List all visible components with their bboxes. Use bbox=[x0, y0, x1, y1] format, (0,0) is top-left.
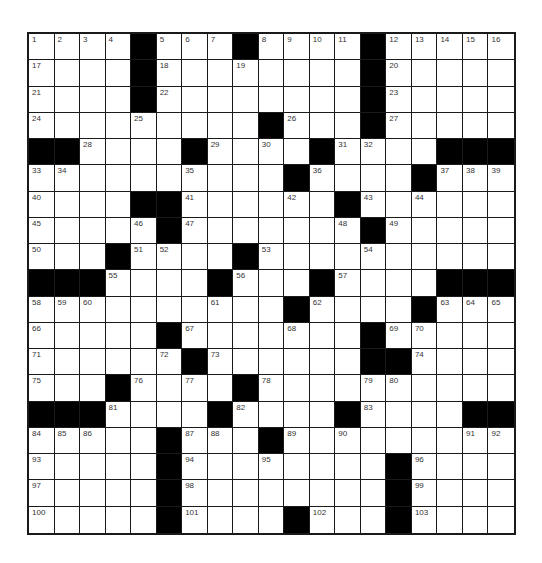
numbered-cell[interactable]: 56 bbox=[233, 270, 259, 296]
empty-cell[interactable] bbox=[157, 402, 183, 428]
empty-cell[interactable] bbox=[412, 87, 438, 113]
empty-cell[interactable] bbox=[412, 402, 438, 428]
empty-cell[interactable] bbox=[131, 139, 157, 165]
empty-cell[interactable] bbox=[386, 402, 412, 428]
empty-cell[interactable] bbox=[488, 87, 514, 113]
numbered-cell[interactable]: 50 bbox=[29, 244, 55, 270]
empty-cell[interactable] bbox=[259, 349, 285, 375]
empty-cell[interactable] bbox=[208, 192, 234, 218]
numbered-cell[interactable]: 2 bbox=[55, 34, 81, 60]
empty-cell[interactable] bbox=[488, 113, 514, 139]
empty-cell[interactable] bbox=[310, 323, 336, 349]
empty-cell[interactable] bbox=[182, 113, 208, 139]
numbered-cell[interactable]: 8 bbox=[259, 34, 285, 60]
numbered-cell[interactable]: 42 bbox=[284, 192, 310, 218]
empty-cell[interactable] bbox=[157, 139, 183, 165]
empty-cell[interactable] bbox=[412, 113, 438, 139]
numbered-cell[interactable]: 75 bbox=[29, 375, 55, 401]
numbered-cell[interactable]: 95 bbox=[259, 454, 285, 480]
numbered-cell[interactable]: 9 bbox=[284, 34, 310, 60]
numbered-cell[interactable]: 86 bbox=[80, 428, 106, 454]
numbered-cell[interactable]: 34 bbox=[55, 165, 81, 191]
empty-cell[interactable] bbox=[488, 349, 514, 375]
empty-cell[interactable] bbox=[386, 192, 412, 218]
numbered-cell[interactable]: 79 bbox=[361, 375, 387, 401]
empty-cell[interactable] bbox=[437, 402, 463, 428]
numbered-cell[interactable]: 38 bbox=[463, 165, 489, 191]
empty-cell[interactable] bbox=[361, 507, 387, 533]
numbered-cell[interactable]: 78 bbox=[259, 375, 285, 401]
empty-cell[interactable] bbox=[106, 139, 132, 165]
empty-cell[interactable] bbox=[310, 428, 336, 454]
numbered-cell[interactable]: 88 bbox=[208, 428, 234, 454]
empty-cell[interactable] bbox=[80, 375, 106, 401]
numbered-cell[interactable]: 97 bbox=[29, 480, 55, 506]
numbered-cell[interactable]: 35 bbox=[182, 165, 208, 191]
numbered-cell[interactable]: 83 bbox=[361, 402, 387, 428]
empty-cell[interactable] bbox=[182, 87, 208, 113]
empty-cell[interactable] bbox=[310, 60, 336, 86]
empty-cell[interactable] bbox=[55, 113, 81, 139]
empty-cell[interactable] bbox=[284, 270, 310, 296]
empty-cell[interactable] bbox=[182, 60, 208, 86]
empty-cell[interactable] bbox=[182, 270, 208, 296]
numbered-cell[interactable]: 17 bbox=[29, 60, 55, 86]
empty-cell[interactable] bbox=[361, 270, 387, 296]
empty-cell[interactable] bbox=[80, 454, 106, 480]
empty-cell[interactable] bbox=[259, 87, 285, 113]
empty-cell[interactable] bbox=[437, 192, 463, 218]
empty-cell[interactable] bbox=[361, 454, 387, 480]
empty-cell[interactable] bbox=[55, 60, 81, 86]
empty-cell[interactable] bbox=[208, 60, 234, 86]
empty-cell[interactable] bbox=[463, 454, 489, 480]
empty-cell[interactable] bbox=[335, 87, 361, 113]
empty-cell[interactable] bbox=[335, 60, 361, 86]
numbered-cell[interactable]: 98 bbox=[182, 480, 208, 506]
empty-cell[interactable] bbox=[335, 349, 361, 375]
numbered-cell[interactable]: 31 bbox=[335, 139, 361, 165]
empty-cell[interactable] bbox=[259, 507, 285, 533]
empty-cell[interactable] bbox=[361, 480, 387, 506]
empty-cell[interactable] bbox=[233, 323, 259, 349]
empty-cell[interactable] bbox=[437, 113, 463, 139]
empty-cell[interactable] bbox=[208, 113, 234, 139]
numbered-cell[interactable]: 99 bbox=[412, 480, 438, 506]
empty-cell[interactable] bbox=[310, 244, 336, 270]
empty-cell[interactable] bbox=[284, 218, 310, 244]
numbered-cell[interactable]: 10 bbox=[310, 34, 336, 60]
empty-cell[interactable] bbox=[233, 87, 259, 113]
empty-cell[interactable] bbox=[335, 244, 361, 270]
empty-cell[interactable] bbox=[157, 165, 183, 191]
empty-cell[interactable] bbox=[80, 349, 106, 375]
empty-cell[interactable] bbox=[55, 480, 81, 506]
empty-cell[interactable] bbox=[106, 507, 132, 533]
empty-cell[interactable] bbox=[488, 60, 514, 86]
numbered-cell[interactable]: 51 bbox=[131, 244, 157, 270]
numbered-cell[interactable]: 66 bbox=[29, 323, 55, 349]
numbered-cell[interactable]: 3 bbox=[80, 34, 106, 60]
numbered-cell[interactable]: 94 bbox=[182, 454, 208, 480]
empty-cell[interactable] bbox=[259, 297, 285, 323]
empty-cell[interactable] bbox=[335, 297, 361, 323]
numbered-cell[interactable]: 48 bbox=[335, 218, 361, 244]
numbered-cell[interactable]: 92 bbox=[488, 428, 514, 454]
empty-cell[interactable] bbox=[488, 507, 514, 533]
empty-cell[interactable] bbox=[233, 480, 259, 506]
numbered-cell[interactable]: 40 bbox=[29, 192, 55, 218]
numbered-cell[interactable]: 72 bbox=[157, 349, 183, 375]
empty-cell[interactable] bbox=[412, 139, 438, 165]
empty-cell[interactable] bbox=[208, 87, 234, 113]
empty-cell[interactable] bbox=[233, 428, 259, 454]
numbered-cell[interactable]: 96 bbox=[412, 454, 438, 480]
empty-cell[interactable] bbox=[463, 480, 489, 506]
empty-cell[interactable] bbox=[488, 244, 514, 270]
empty-cell[interactable] bbox=[131, 454, 157, 480]
empty-cell[interactable] bbox=[182, 297, 208, 323]
numbered-cell[interactable]: 27 bbox=[386, 113, 412, 139]
empty-cell[interactable] bbox=[412, 428, 438, 454]
numbered-cell[interactable]: 24 bbox=[29, 113, 55, 139]
empty-cell[interactable] bbox=[361, 165, 387, 191]
numbered-cell[interactable]: 12 bbox=[386, 34, 412, 60]
empty-cell[interactable] bbox=[412, 270, 438, 296]
empty-cell[interactable] bbox=[463, 323, 489, 349]
